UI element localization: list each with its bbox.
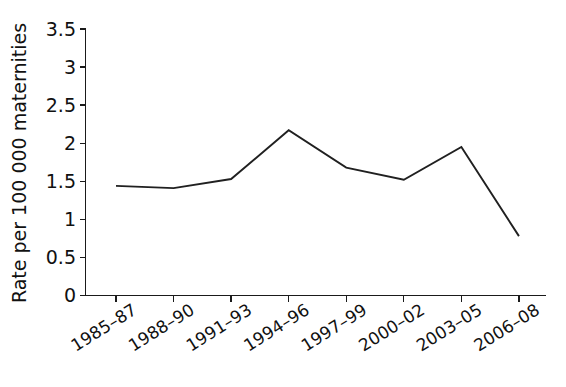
y-tick-label-group: 00.511.522.533.5 [46, 18, 76, 307]
y-tick-label: 2 [64, 132, 76, 154]
x-tick-label-group: 1985–871988–901991–931994–961997–992000–… [67, 299, 543, 355]
y-tick-label: 3 [64, 56, 76, 78]
y-tick-label: 1.5 [46, 170, 76, 192]
y-tick-label: 1 [64, 208, 76, 230]
y-tick-label: 0.5 [46, 246, 76, 268]
x-tick-mark-group [116, 296, 519, 303]
y-tick-label: 2.5 [46, 94, 76, 116]
y-tick-label: 0 [64, 284, 76, 306]
y-tick-label: 3.5 [46, 18, 76, 40]
x-tick-label: 2006–08 [470, 299, 543, 355]
y-tick-mark-group [80, 29, 86, 296]
y-axis-title: Rate per 100 000 maternities [8, 23, 30, 303]
chart-container: Rate per 100 000 maternities 00.511.522.… [0, 0, 566, 387]
y-axis-title-group: Rate per 100 000 maternities [8, 23, 30, 303]
line-chart: Rate per 100 000 maternities 00.511.522.… [0, 0, 566, 387]
data-series-line [116, 130, 519, 236]
